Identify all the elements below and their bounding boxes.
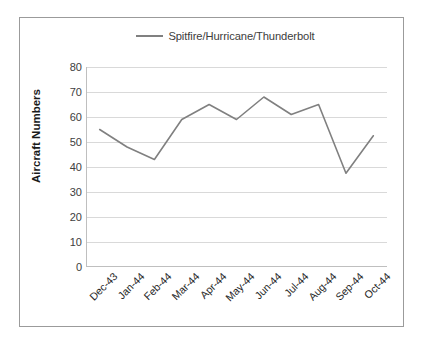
y-tick-label-70: 70 [70, 86, 82, 98]
y-axis-tick-labels: 80706050403020100 [48, 67, 82, 267]
plot-area [86, 67, 387, 267]
x-axis-tick-labels: Dec-43Jan-44Feb-44Mar-44Apr-44May-44Jun-… [86, 270, 387, 328]
y-tick-label-60: 60 [70, 111, 82, 123]
y-tick-label-50: 50 [70, 136, 82, 148]
legend-label: Spitfire/Hurricane/Thunderbolt [168, 30, 314, 42]
series-line-spitfire-hurricane-thunderbolt [86, 67, 387, 267]
y-tick-label-30: 30 [70, 186, 82, 198]
line-swatch-icon [136, 35, 163, 37]
y-tick-label-80: 80 [70, 61, 82, 73]
y-tick-label-40: 40 [70, 161, 82, 173]
chart-frame: Spitfire/Hurricane/Thunderbolt Aircraft … [19, 17, 404, 327]
y-tick-label-10: 10 [70, 236, 82, 248]
legend-entry-spitfire-hurricane-thunderbolt: Spitfire/Hurricane/Thunderbolt [136, 30, 314, 42]
chart-legend: Spitfire/Hurricane/Thunderbolt [20, 30, 403, 42]
y-tick-label-0: 0 [76, 261, 82, 273]
y-axis-title: Aircraft Numbers [30, 56, 42, 216]
y-tick-label-20: 20 [70, 211, 82, 223]
